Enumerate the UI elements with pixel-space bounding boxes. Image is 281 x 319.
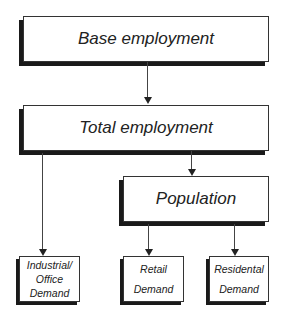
industrial-line-1: Industrial/ — [27, 258, 73, 272]
arrow-population-to-retail — [148, 224, 149, 250]
arrowhead-icon — [39, 249, 47, 256]
industrial-office-demand-box: Industrial/ Office Demand — [19, 256, 80, 302]
residential-demand-box: Residental Demand — [209, 256, 269, 302]
industrial-line-2: Office — [36, 272, 63, 286]
total-employment-label: Total employment — [79, 118, 213, 138]
residential-line-1: Residental — [214, 262, 264, 276]
base-employment-label: Base employment — [78, 29, 214, 49]
base-employment-box: Base employment — [23, 16, 269, 62]
industrial-line-3: Demand — [30, 286, 70, 300]
arrow-total-to-population — [191, 151, 192, 170]
population-box: Population — [123, 176, 269, 222]
retail-demand-box: Retail Demand — [123, 256, 184, 302]
arrowhead-icon — [231, 249, 239, 256]
total-employment-box: Total employment — [23, 105, 269, 151]
arrowhead-icon — [144, 97, 152, 104]
arrow-total-to-industrial — [42, 153, 43, 249]
arrowhead-icon — [188, 169, 196, 176]
retail-line-2: Demand — [134, 282, 174, 296]
arrowhead-icon — [145, 249, 153, 256]
population-label: Population — [156, 189, 236, 209]
residential-line-2: Demand — [219, 282, 259, 296]
retail-line-1: Retail — [140, 262, 167, 276]
arrow-base-to-total — [147, 62, 148, 98]
arrow-population-to-residential — [234, 224, 235, 250]
